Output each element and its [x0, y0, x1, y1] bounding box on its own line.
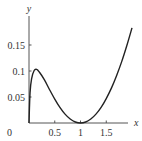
x-tick-label: 1: [78, 127, 83, 138]
x-tick-label: 1.5: [100, 127, 113, 138]
y-tick-label: 0.1: [13, 66, 26, 77]
chart: 0.511.50.050.10.15 x y 0: [0, 0, 142, 141]
x-axis-label: x: [133, 117, 139, 128]
axes: [29, 16, 128, 123]
origin-label: 0: [7, 127, 12, 138]
y-tick-label: 0.05: [8, 92, 26, 103]
x-tick-label: 0.5: [49, 127, 62, 138]
y-axis-label: y: [26, 3, 32, 14]
data-curve: [29, 28, 132, 123]
y-tick-label: 0.15: [8, 40, 26, 51]
